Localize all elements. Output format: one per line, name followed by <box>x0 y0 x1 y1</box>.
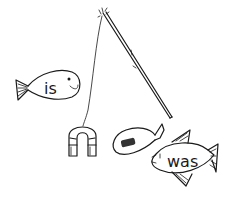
fish-small <box>113 124 164 154</box>
fishing-illustration: is was <box>0 0 231 205</box>
fish-is: is <box>16 71 80 100</box>
fishing-rod-icon <box>98 8 172 118</box>
magnet-icon <box>69 127 96 156</box>
fish-was: was <box>152 130 218 186</box>
fish-word-was: was <box>167 152 198 171</box>
fishing-line <box>83 16 102 126</box>
fish-word-is: is <box>44 79 57 98</box>
